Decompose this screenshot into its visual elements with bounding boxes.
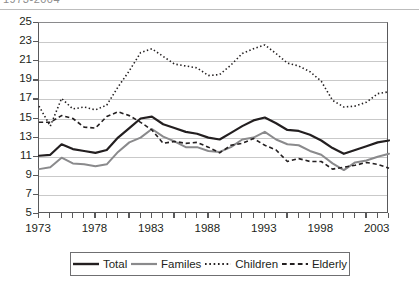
chart-legend: TotalFamilesChildrenElderly — [70, 252, 350, 276]
legend-label: Total — [103, 258, 127, 270]
legend-item-total[interactable]: Total — [73, 258, 127, 270]
legend-swatch-solid — [73, 259, 99, 269]
x-tick-label: 1998 — [307, 222, 333, 234]
x-tick-label: 1993 — [251, 222, 277, 234]
x-tick-label: 1983 — [138, 222, 164, 234]
series-line-elderly — [39, 112, 389, 169]
legend-label: Elderly — [312, 258, 347, 270]
x-tick-label: 1978 — [82, 222, 108, 234]
x-tick-label: 1988 — [195, 222, 221, 234]
x-tick-label: 2003 — [364, 222, 390, 234]
legend-label: Familes — [161, 258, 201, 270]
series-line-children — [39, 45, 389, 126]
legend-item-children[interactable]: Children — [205, 258, 278, 270]
legend-item-elderly[interactable]: Elderly — [282, 258, 347, 270]
legend-swatch-dotted — [205, 259, 231, 269]
legend-swatch-solid — [131, 259, 157, 269]
legend-item-familes[interactable]: Familes — [131, 258, 201, 270]
legend-swatch-dashed — [282, 259, 308, 269]
plot-area — [38, 22, 388, 213]
chart-page: 1973-2004 5791113151719212325 1973197819… — [0, 0, 419, 287]
x-tick-label: 1973 — [25, 222, 51, 234]
legend-label: Children — [235, 258, 278, 270]
series-lines — [39, 23, 389, 214]
